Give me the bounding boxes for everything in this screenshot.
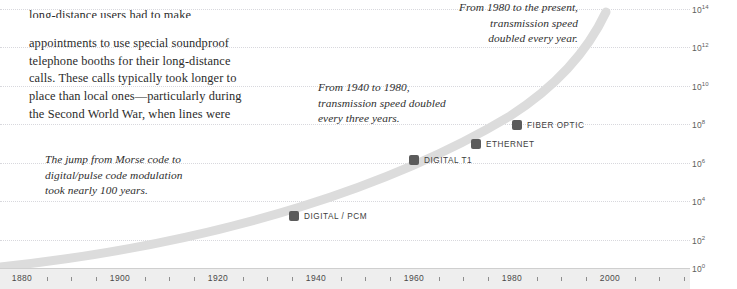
article-body-clipped-line: long-distance users had to make (29, 7, 287, 18)
y-axis-tick-label: 108 (692, 119, 705, 130)
x-axis-tick-label: 1920 (208, 273, 228, 283)
data-point-marker-icon (409, 155, 419, 165)
x-axis-minor-tick (47, 277, 48, 281)
x-axis: 1880190019201940196019802000 (0, 268, 690, 289)
y-axis-tick-label: 1014 (692, 4, 709, 15)
x-axis-minor-tick (439, 277, 440, 281)
x-axis-minor-tick (488, 277, 489, 281)
x-axis-tick-label: 1880 (12, 273, 32, 283)
y-axis-tick-label: 1010 (692, 81, 709, 92)
x-axis-minor-tick (194, 277, 195, 281)
data-point[interactable]: FIBER OPTIC (512, 120, 584, 130)
x-axis-minor-tick (635, 277, 636, 281)
x-axis-minor-tick (561, 277, 562, 281)
data-point-label: DIGITAL T1 (424, 156, 472, 165)
data-point-label: DIGITAL / PCM (304, 212, 367, 221)
x-axis-tick-label: 1940 (306, 273, 326, 283)
annotation-1940-1980: From 1940 to 1980, transmission speed do… (318, 80, 508, 127)
chart-root: long-distance users had to make appointm… (0, 0, 737, 289)
article-body-paragraph: appointments to use special soundproof t… (29, 36, 242, 120)
x-axis-minor-tick (390, 277, 391, 281)
x-axis-tick-label: 2000 (600, 273, 620, 283)
x-axis-minor-tick (659, 277, 660, 281)
y-axis-tick-label: 1012 (692, 42, 709, 53)
x-axis-tick-label: 1900 (110, 273, 130, 283)
data-point[interactable]: ETHERNET (471, 139, 535, 149)
x-axis-minor-tick (586, 277, 587, 281)
x-axis-minor-tick (267, 277, 268, 281)
data-point-label: ETHERNET (486, 140, 535, 149)
y-axis-tick-label: 100 (692, 263, 705, 274)
y-axis-tick-label: 106 (692, 158, 705, 169)
x-axis-minor-tick (71, 277, 72, 281)
data-point-marker-icon (512, 120, 522, 130)
data-point-marker-icon (289, 211, 299, 221)
y-axis-tick-label: 104 (692, 196, 705, 207)
x-axis-minor-tick (537, 277, 538, 281)
x-axis-minor-tick (292, 277, 293, 281)
x-axis-minor-tick (169, 277, 170, 281)
x-axis-minor-tick (145, 277, 146, 281)
article-body-text: long-distance users had to make appointm… (29, 0, 287, 123)
x-axis-minor-tick (96, 277, 97, 281)
data-point-marker-icon (471, 139, 481, 149)
x-axis-tick-label: 1980 (502, 273, 522, 283)
x-axis-tick-label: 1960 (404, 273, 424, 283)
data-point-label: FIBER OPTIC (527, 121, 584, 130)
x-axis-minor-tick (341, 277, 342, 281)
x-axis-minor-tick (463, 277, 464, 281)
x-axis-minor-tick (365, 277, 366, 281)
x-axis-minor-tick (243, 277, 244, 281)
annotation-morse-to-digital: The jump from Morse code to digital/puls… (45, 152, 245, 199)
annotation-1980-present: From 1980 to the present, transmission s… (423, 0, 578, 47)
y-axis-tick-label: 102 (692, 235, 705, 246)
data-point[interactable]: DIGITAL / PCM (289, 211, 367, 221)
x-axis-minor-tick (684, 277, 685, 281)
data-point[interactable]: DIGITAL T1 (409, 155, 472, 165)
